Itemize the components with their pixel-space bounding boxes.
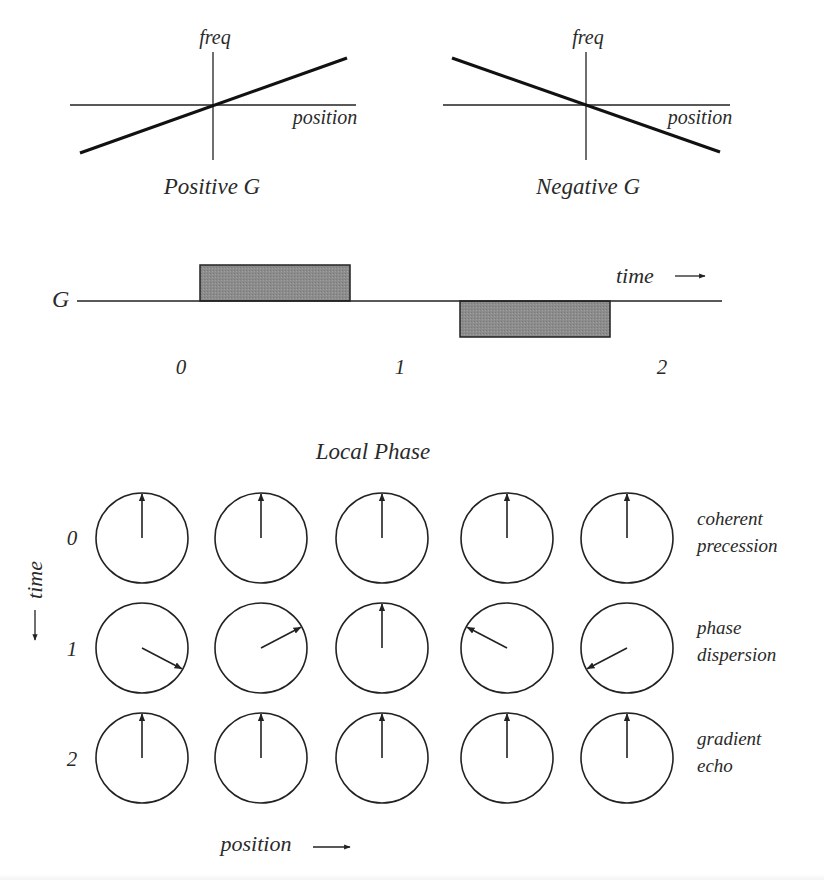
position-label: position: [666, 106, 732, 129]
freq-label: freq: [199, 26, 230, 49]
positive-gradient-pulse: [200, 265, 350, 301]
phase-clock: [581, 603, 673, 693]
phase-grid: [96, 493, 673, 803]
phase-arrow-icon: [261, 627, 301, 648]
phase-clock: [96, 713, 188, 803]
phase-arrow-icon: [587, 648, 627, 669]
phase-clock: [461, 603, 553, 693]
position-axis-label: position: [219, 831, 292, 856]
phase-arrow-icon: [467, 627, 507, 648]
negative-g-title: Negative G: [535, 174, 640, 199]
phase-clock: [336, 603, 428, 693]
cropped-caption: [0, 874, 824, 880]
row-2-description-line1: gradient: [697, 728, 762, 749]
phase-clock: [96, 603, 188, 693]
phase-clock: [581, 493, 673, 583]
row-labels: 0 1 2: [67, 526, 78, 771]
time-tick-0: 0: [176, 355, 187, 379]
time-tick-1: 1: [395, 355, 406, 379]
phase-arrow-icon: [142, 648, 182, 669]
phase-clock: [336, 713, 428, 803]
phase-clock: [336, 493, 428, 583]
gradient-waveform: G time 0 1 2: [52, 263, 722, 379]
phase-clock: [581, 713, 673, 803]
row-time-1: 1: [67, 637, 78, 661]
row-1-description-line1: phase: [695, 617, 741, 638]
positive-g-plot: freq position Positive G: [70, 26, 357, 199]
row-0-description-line2: precession: [695, 535, 778, 556]
row-time-0: 0: [67, 526, 78, 550]
phase-clock: [215, 493, 307, 583]
g-label: G: [52, 286, 69, 312]
row-0-description-line1: coherent: [697, 508, 763, 529]
position-axis-bottom: position: [219, 831, 350, 856]
mri-gradient-echo-diagram: freq position Positive G freq position N…: [0, 0, 824, 880]
time-tick-2: 2: [657, 355, 668, 379]
positive-g-title: Positive G: [163, 174, 261, 199]
phase-clock: [461, 493, 553, 583]
freq-label: freq: [572, 26, 603, 49]
row-descriptions: coherent precession phase dispersion gra…: [695, 508, 778, 776]
phase-clock: [215, 713, 307, 803]
phase-clock: [96, 493, 188, 583]
negative-g-plot: freq position Negative G: [443, 26, 732, 199]
position-label: position: [291, 106, 357, 129]
negative-gradient-pulse: [460, 301, 610, 337]
time-label: time: [616, 263, 654, 288]
phase-clock: [461, 713, 553, 803]
row-time-2: 2: [67, 747, 78, 771]
row-2-description-line2: echo: [697, 755, 733, 776]
row-1-description-line2: dispersion: [697, 644, 776, 665]
time-axis-label: time: [22, 561, 47, 599]
phase-clock: [215, 603, 307, 693]
local-phase-title: Local Phase: [315, 439, 430, 464]
time-axis-vertical: time: [22, 561, 47, 640]
